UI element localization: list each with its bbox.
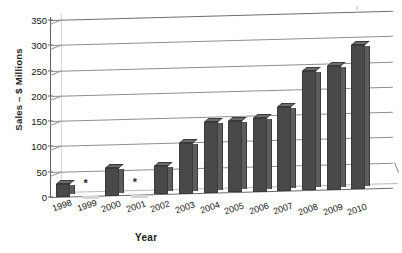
bar-side-face xyxy=(341,67,346,187)
bar-side-face xyxy=(242,122,247,189)
bar-top-face xyxy=(351,41,370,45)
x-axis-tick-labels: 1998199920002001200220032004200520062007… xyxy=(50,196,402,236)
y-tick-250: 250 xyxy=(17,65,47,76)
x-tick-2005: 2005 xyxy=(223,200,245,216)
bar-slot-2007[interactable] xyxy=(277,190,301,191)
bar-side-face xyxy=(267,119,272,188)
bar-side-face xyxy=(218,123,223,190)
x-tick-2007: 2007 xyxy=(272,201,294,217)
bar-top-face xyxy=(327,62,346,66)
bar-slot-2001[interactable]: * xyxy=(130,194,154,195)
y-axis-tick-labels: 050100150200250300350 xyxy=(17,0,47,253)
y-tick-100: 100 xyxy=(17,141,47,152)
bar-top-face xyxy=(56,180,75,184)
x-tick-2002: 2002 xyxy=(149,199,171,215)
y-tick-300: 300 xyxy=(17,40,47,51)
x-tick-2000: 2000 xyxy=(100,198,122,214)
bar-slot-2006[interactable] xyxy=(253,191,277,192)
y-tick-350: 350 xyxy=(17,15,47,26)
x-tick-2008: 2008 xyxy=(297,201,319,217)
bar-side-face xyxy=(119,169,124,193)
bar-slot-2005[interactable] xyxy=(228,191,252,192)
bar-2003[interactable] xyxy=(179,143,193,194)
bar-top-face xyxy=(204,118,223,122)
sales-bar-chart: Sales – $ Millions 050100150200250300350… xyxy=(0,0,402,253)
scan-artifact xyxy=(356,6,358,10)
bar-2009[interactable] xyxy=(327,66,341,190)
bar-2000[interactable] xyxy=(105,168,119,196)
bar-2010[interactable] xyxy=(351,45,365,189)
bar-side-face xyxy=(365,46,370,186)
bar-top-face xyxy=(179,139,198,143)
bar-2008[interactable] xyxy=(302,71,316,190)
bar-slot-2004[interactable] xyxy=(204,192,228,193)
bar-2004[interactable] xyxy=(204,122,218,193)
bar-top-face xyxy=(253,114,272,118)
bar-slot-2002[interactable] xyxy=(154,193,178,194)
y-tick-200: 200 xyxy=(17,90,47,101)
bar-1998[interactable] xyxy=(56,184,70,197)
bar-side-face xyxy=(291,108,296,187)
bar-2002[interactable] xyxy=(154,166,168,194)
bar-slot-2010[interactable] xyxy=(351,188,375,189)
x-axis-title: Year xyxy=(135,232,157,243)
floor-right-edge xyxy=(394,162,399,173)
bar-slot-2003[interactable] xyxy=(179,193,203,194)
bar-2007[interactable] xyxy=(277,107,291,190)
bar-side-face xyxy=(193,144,198,191)
x-tick-2009: 2009 xyxy=(322,202,344,218)
bar-slot-2009[interactable] xyxy=(327,189,351,190)
missing-data-asterisk-2001: * xyxy=(133,178,137,186)
missing-data-asterisk-1999: * xyxy=(84,179,88,187)
bar-top-face xyxy=(228,117,247,121)
x-tick-2001: 2001 xyxy=(125,198,147,214)
x-tick-2004: 2004 xyxy=(199,200,221,216)
bar-side-face xyxy=(168,167,173,191)
bar-side-face xyxy=(70,185,75,194)
x-tick-2003: 2003 xyxy=(174,199,196,215)
bar-2005[interactable] xyxy=(228,121,242,192)
bars-layer: ** xyxy=(50,14,393,202)
plot-area: ** xyxy=(50,14,393,202)
y-tick-150: 150 xyxy=(17,116,47,127)
bar-top-face xyxy=(105,164,124,168)
bar-side-face xyxy=(316,72,321,187)
bar-top-face xyxy=(302,67,321,71)
x-tick-2010: 2010 xyxy=(346,202,368,218)
bar-top-face xyxy=(277,103,296,107)
x-tick-1998: 1998 xyxy=(51,197,73,213)
bar-top-face xyxy=(154,162,173,166)
y-tick-0: 0 xyxy=(17,192,47,203)
x-tick-1999: 1999 xyxy=(76,198,98,214)
bar-2006[interactable] xyxy=(253,118,267,191)
y-tick-50: 50 xyxy=(17,166,47,177)
bar-slot-2008[interactable] xyxy=(302,189,326,190)
x-tick-2006: 2006 xyxy=(248,200,270,216)
